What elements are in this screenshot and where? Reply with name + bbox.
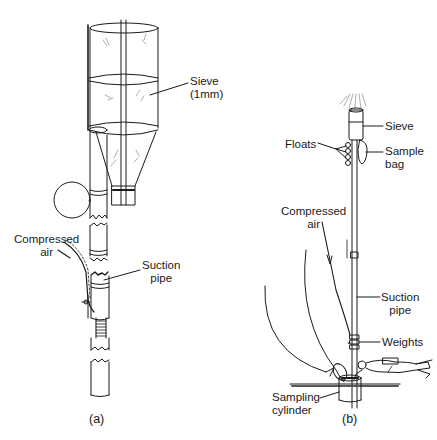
label-suction-pipe-a: Suction pipe <box>142 259 180 285</box>
label-compressed-air-a-line1: Compressed <box>14 233 79 246</box>
air-hose-b <box>322 222 350 335</box>
float-ball <box>54 182 90 218</box>
sieve-basket <box>88 20 158 205</box>
label-compressed-air-b: Compressed air <box>281 205 346 231</box>
label-suction-pipe-b: Suction pipe <box>381 291 419 317</box>
label-sample-bag-line1: Sample <box>385 145 424 158</box>
label-sampling-cylinder-line1: Sampling <box>272 391 320 404</box>
leader-sampling-cylinder <box>320 392 339 398</box>
label-weights: Weights <box>382 336 423 349</box>
label-sieve-a-line1: Sieve <box>190 75 223 88</box>
label-sieve-a-line2: (1mm) <box>190 88 223 101</box>
sampling-cylinder <box>339 375 361 402</box>
label-floats: Floats <box>285 138 316 151</box>
label-suction-pipe-b-line2: pipe <box>381 304 419 317</box>
label-suction-pipe-b-line1: Suction <box>381 291 419 304</box>
panel-a-drawing <box>54 20 188 397</box>
diagram-artwork <box>0 0 437 440</box>
label-sampling-cylinder: Sampling cylinder <box>272 391 320 417</box>
label-suction-pipe-a-line1: Suction <box>142 259 180 272</box>
leader-floats <box>318 143 346 158</box>
label-sieve-a: Sieve (1mm) <box>190 75 223 101</box>
sieve-b <box>349 110 363 140</box>
leader-suction-pipe-a <box>104 270 140 280</box>
caption-b: (b) <box>342 412 357 426</box>
label-sample-bag-line2: bag <box>385 158 424 171</box>
leader-sieve-a <box>150 83 188 95</box>
label-sieve-b: Sieve <box>385 120 414 133</box>
diver <box>354 358 432 380</box>
label-compressed-air-a: Compressed air <box>14 233 79 259</box>
water-spray <box>340 94 366 108</box>
label-sampling-cylinder-line2: cylinder <box>272 404 320 417</box>
label-compressed-air-a-line2: air <box>14 246 79 259</box>
caption-a: (a) <box>89 412 104 426</box>
label-compressed-air-b-line2: air <box>281 218 346 231</box>
suction-pipe-a <box>54 127 109 397</box>
label-compressed-air-b-line1: Compressed <box>281 205 346 218</box>
suction-pipe-b <box>352 140 357 408</box>
diver-hose <box>305 250 344 382</box>
label-sample-bag: Sample bag <box>385 145 424 171</box>
label-suction-pipe-a-line2: pipe <box>142 272 180 285</box>
